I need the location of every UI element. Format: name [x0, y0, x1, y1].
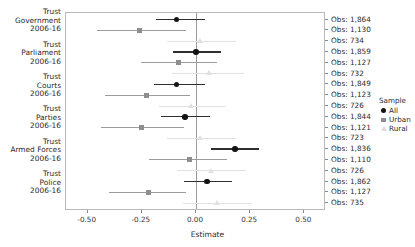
group-label: TrustArmed Forces2006-16 [10, 138, 61, 164]
estimate-point-all [193, 49, 199, 55]
obs-count-label: Obs: 1,836 [331, 144, 371, 153]
group-label-line: 2006-16 [10, 155, 61, 164]
obs-count-label: Obs: 726 [331, 101, 364, 110]
legend-title: Sample [379, 96, 411, 105]
obs-count-label: Obs: 1,127 [331, 57, 371, 66]
legend-item-label: All [389, 106, 398, 115]
obs-count-label: Obs: 723 [331, 133, 364, 142]
obs-count-label: Obs: 1,864 [331, 14, 371, 23]
estimate-row [66, 176, 324, 187]
legend-item-rural[interactable]: Rural [379, 124, 411, 133]
confidence-interval-all [154, 84, 205, 86]
estimate-row [66, 165, 324, 176]
group-label: TrustGovernment2006-16 [15, 8, 61, 34]
estimate-row [66, 14, 324, 25]
estimate-row [66, 90, 324, 101]
estimate-point-urban [144, 93, 149, 98]
y-axis-tick [325, 116, 328, 117]
estimate-row [66, 133, 324, 144]
y-axis-tick [325, 62, 328, 63]
estimate-row [66, 122, 324, 133]
x-axis-tick [141, 210, 142, 213]
y-axis-tick [325, 170, 328, 171]
obs-count-label: Obs: 732 [331, 68, 364, 77]
obs-count-label: Obs: 1,123 [331, 90, 371, 99]
estimate-point-rural [197, 38, 203, 43]
estimate-point-all [182, 114, 188, 120]
group-label-line: 2006-16 [21, 58, 61, 67]
obs-count-label: Obs: 734 [331, 36, 364, 45]
legend-item-urban[interactable]: Urban [379, 115, 411, 124]
estimate-row [66, 101, 324, 112]
obs-count-label: Obs: 1,130 [331, 25, 371, 34]
x-axis-title: Estimate [0, 230, 415, 239]
estimate-point-all [232, 146, 238, 152]
estimate-row [66, 47, 324, 58]
obs-count-label: Obs: 1,862 [331, 176, 371, 185]
obs-count-label: Obs: 1,859 [331, 47, 371, 56]
x-axis-tick-label: 0.50 [295, 215, 311, 224]
y-axis-tick [325, 202, 328, 203]
estimate-row [66, 154, 324, 165]
estimate-row [66, 57, 324, 68]
group-label-line: 2006-16 [30, 187, 61, 196]
estimate-row [66, 111, 324, 122]
estimate-point-rural [214, 200, 220, 205]
estimate-row [66, 68, 324, 79]
estimate-row [66, 25, 324, 36]
estimate-point-all [204, 179, 210, 185]
legend-marker-icon [381, 108, 386, 113]
obs-count-label: Obs: 1,849 [331, 79, 371, 88]
estimate-row [66, 79, 324, 90]
y-axis-tick [325, 73, 328, 74]
legend-marker-icon [381, 126, 387, 131]
estimate-row [66, 187, 324, 198]
x-axis-tick [87, 210, 88, 213]
obs-count-label: Obs: 1,121 [331, 122, 371, 131]
x-axis-tick-label: 0.00 [187, 215, 203, 224]
estimate-point-urban [146, 190, 151, 195]
estimate-point-urban [137, 28, 142, 33]
y-axis-tick [325, 105, 328, 106]
estimate-point-urban [176, 60, 181, 65]
confidence-interval-all [156, 19, 205, 21]
legend: Sample AllUrbanRural [379, 96, 411, 133]
legend-key [379, 106, 388, 115]
y-axis-tick [325, 19, 328, 20]
x-axis-tick [195, 210, 196, 213]
y-axis-tick [325, 159, 328, 160]
x-axis-tick-label: -0.50 [77, 215, 96, 224]
group-label-line: 2006-16 [15, 25, 61, 34]
legend-item-all[interactable]: All [379, 106, 411, 115]
y-axis-tick [325, 137, 328, 138]
legend-key [379, 124, 388, 133]
group-label: TrustParliament2006-16 [21, 41, 61, 67]
legend-items: AllUrbanRural [379, 106, 411, 133]
forest-plot-figure: -0.50-0.250.000.250.50 Estimate TrustGov… [0, 0, 415, 247]
estimate-row [66, 144, 324, 155]
y-axis-tick [325, 148, 328, 149]
estimate-point-rural [188, 103, 194, 108]
y-axis-tick [325, 181, 328, 182]
estimate-point-urban [187, 157, 192, 162]
estimate-point-all [174, 17, 180, 23]
obs-count-label: Obs: 735 [331, 198, 364, 207]
x-axis-tick-label: -0.25 [132, 215, 151, 224]
estimate-point-rural [197, 135, 203, 140]
group-label-line: 2006-16 [30, 122, 61, 131]
y-axis-tick [325, 83, 328, 84]
obs-count-label: Obs: 726 [331, 165, 364, 174]
x-axis-tick-label: 0.25 [241, 215, 257, 224]
y-axis-tick [325, 127, 328, 128]
group-label: TrustPolice2006-16 [30, 170, 61, 196]
group-label-line: 2006-16 [30, 90, 61, 99]
legend-item-label: Rural [389, 124, 408, 133]
legend-marker-icon [381, 118, 386, 123]
estimate-point-rural [208, 168, 214, 173]
legend-key [379, 115, 388, 124]
estimate-row [66, 36, 324, 47]
plot-panel [65, 12, 325, 210]
legend-item-label: Urban [389, 115, 411, 124]
estimate-point-all [174, 82, 180, 88]
y-axis-tick [325, 94, 328, 95]
